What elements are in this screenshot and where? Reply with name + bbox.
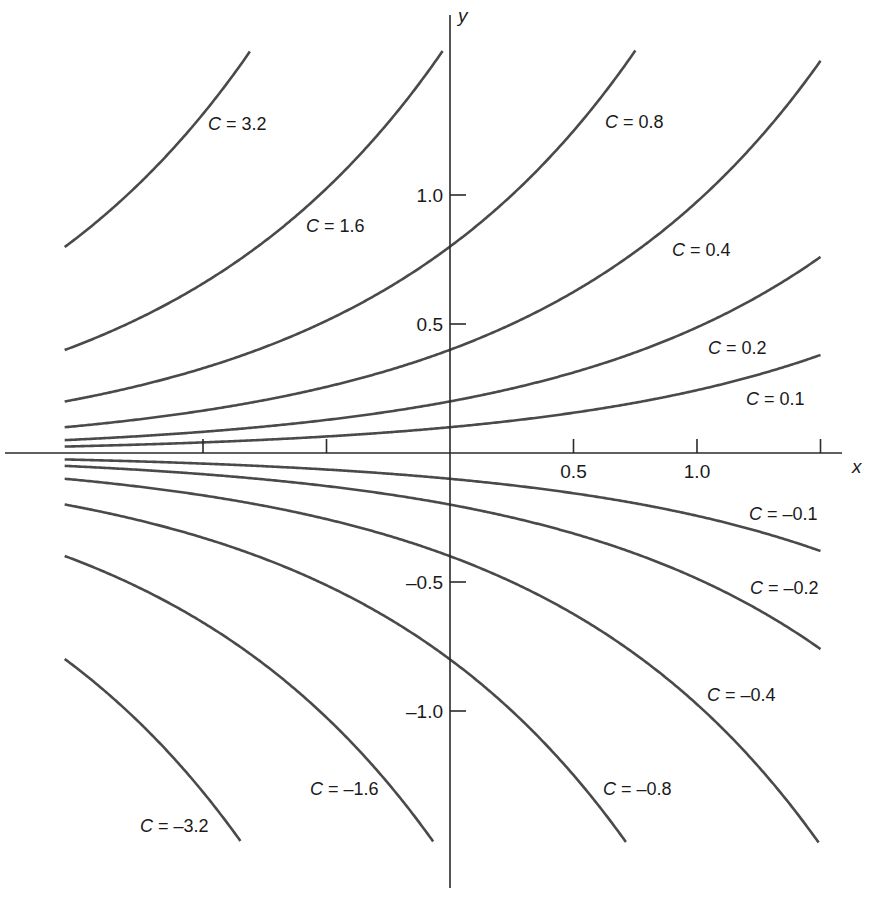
solution-curve — [65, 52, 250, 247]
curve-label: C = –0.8 — [603, 779, 672, 799]
curve-label: C = 1.6 — [306, 216, 365, 236]
y-tick-label: 0.5 — [417, 314, 443, 335]
curve-label: C = 3.2 — [208, 114, 267, 134]
y-tick-label: –1.0 — [406, 701, 443, 722]
x-axis-label: x — [851, 456, 863, 477]
curve-label: C = 0.2 — [708, 338, 767, 358]
solution-curve — [65, 466, 821, 649]
curve-labels: C = 3.2C = 1.6C = 0.8C = 0.4C = 0.2C = 0… — [140, 112, 819, 836]
direction-field-chart: 0.51.01.00.5–0.5–1.0 C = 3.2C = 1.6C = 0… — [0, 0, 878, 902]
curve-label: C = 0.8 — [605, 112, 664, 132]
solution-curve — [65, 479, 819, 843]
curve-label: C = –3.2 — [140, 816, 209, 836]
curve-label: C = –0.1 — [749, 504, 818, 524]
y-axis-label: y — [456, 5, 469, 26]
y-tick-label: –0.5 — [406, 572, 443, 593]
x-tick-label: 1.0 — [684, 461, 710, 482]
solution-curve — [65, 659, 241, 841]
solution-curves — [65, 51, 821, 843]
y-tick-label: 1.0 — [417, 185, 443, 206]
x-tick-label: 0.5 — [560, 461, 586, 482]
axes — [5, 15, 842, 888]
curve-label: C = 0.4 — [672, 240, 731, 260]
curve-label: C = –1.6 — [310, 779, 379, 799]
curve-label: C = 0.1 — [746, 389, 805, 409]
curve-label: C = –0.2 — [750, 578, 819, 598]
curve-label: C = –0.4 — [707, 685, 776, 705]
